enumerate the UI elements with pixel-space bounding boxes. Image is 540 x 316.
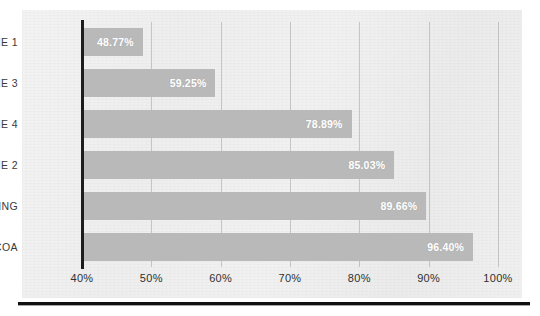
bar-row[interactable]: 59.25%: [82, 69, 215, 97]
gridline-80pct: [359, 22, 360, 267]
x-tick-label: 60%: [209, 272, 232, 284]
bar-cocoa[interactable]: 96.40%: [82, 233, 473, 261]
bar-packing[interactable]: 89.66%: [82, 192, 426, 220]
category-label-line-3: LINE 3: [0, 69, 18, 97]
x-tick-label: 100%: [483, 272, 512, 284]
bar-line-3[interactable]: 59.25%: [82, 69, 215, 97]
x-tick-label: 50%: [140, 272, 163, 284]
horizontal-bar-chart: LINE 1LINE 3LINE 4LINE 2PACKINGCOCOA 48.…: [22, 10, 522, 298]
bar-row[interactable]: 89.66%: [82, 192, 426, 220]
bar-value-label: 59.25%: [170, 77, 207, 89]
category-label-line-4: LINE 4: [0, 110, 18, 138]
bar-value-label: 48.77%: [97, 36, 134, 48]
x-tick-label: 70%: [279, 272, 302, 284]
bar-line-1[interactable]: 48.77%: [82, 28, 143, 56]
bar-value-label: 96.40%: [427, 241, 464, 253]
category-label-line-1: LINE 1: [0, 28, 18, 56]
bar-row[interactable]: 96.40%: [82, 233, 473, 261]
gridline-50pct: [151, 22, 152, 267]
x-tick-label: 40%: [71, 272, 94, 284]
page-divider-rule-shadow: [18, 305, 530, 306]
gridline-60pct: [221, 22, 222, 267]
bar-value-label: 85.03%: [348, 159, 385, 171]
value-axis-line: [81, 20, 84, 269]
x-tick-label: 80%: [348, 272, 371, 284]
bar-row[interactable]: 85.03%: [82, 151, 394, 179]
category-label-packing: PACKING: [0, 192, 18, 220]
bar-value-label: 78.89%: [306, 118, 343, 130]
gridline-70pct: [290, 22, 291, 267]
category-label-cocoa: COCOA: [0, 233, 18, 261]
bar-line-4[interactable]: 78.89%: [82, 110, 352, 138]
scanned-page: LINE 1LINE 3LINE 4LINE 2PACKINGCOCOA 48.…: [0, 0, 540, 316]
bar-value-label: 89.66%: [380, 200, 417, 212]
bar-line-2[interactable]: 85.03%: [82, 151, 394, 179]
gridline-100pct: [498, 22, 499, 267]
plot-area: 48.77%59.25%78.89%85.03%89.66%96.40%: [82, 22, 498, 267]
gridline-90pct: [429, 22, 430, 267]
category-axis: LINE 1LINE 3LINE 4LINE 2PACKINGCOCOA: [0, 22, 18, 267]
x-tick-label: 90%: [417, 272, 440, 284]
bar-row[interactable]: 78.89%: [82, 110, 352, 138]
bar-row[interactable]: 48.77%: [82, 28, 143, 56]
category-label-line-2: LINE 2: [0, 151, 18, 179]
